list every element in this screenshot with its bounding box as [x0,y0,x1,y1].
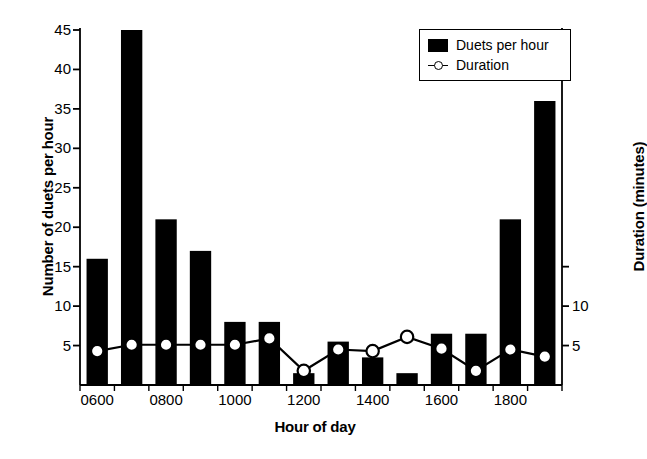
legend-label-duets: Duets per hour [456,38,549,52]
duration-marker-1100 [263,332,275,344]
duration-marker-1500 [401,331,413,343]
legend-item-duets: Duets per hour [428,35,563,55]
y-axis-right-tick-label-10: 10 [572,298,612,313]
x-axis-tick-labels: 0600080010001200140016001800 [0,392,644,414]
bar-0800 [155,219,176,385]
y-axis-left-tick-labels: 51015202530354045 [27,0,71,459]
duration-marker-1400 [366,345,378,357]
x-axis-tick-label-1400: 1400 [343,392,403,407]
duration-marker-1700 [470,365,482,377]
y-axis-right-tick-label-5: 5 [572,338,612,353]
duration-marker-1900 [539,350,551,362]
x-axis-tick-label-0600: 0600 [67,392,127,407]
duration-marker-0900 [194,339,206,351]
legend-item-duration: Duration [428,55,563,75]
duration-marker-0600 [91,345,103,357]
legend: Duets per hour Duration [419,29,571,81]
y-axis-left-tick-label-20: 20 [31,219,71,234]
y-axis-left-tick-label-40: 40 [31,61,71,76]
y-axis-left-tick-label-10: 10 [31,298,71,313]
x-axis-tick-label-1200: 1200 [274,392,334,407]
y-axis-left-tick-label-25: 25 [31,180,71,195]
y-axis-right-tick-labels: 510 [572,0,616,459]
duration-marker-1800 [504,343,516,355]
duration-marker-0700 [125,339,137,351]
y-axis-right-title: Duration (minutes) [630,47,647,367]
y-axis-left-tick-label-35: 35 [31,101,71,116]
x-axis-tick-label-1800: 1800 [480,392,540,407]
bar-series-duets-per-hour [87,30,556,385]
y-axis-left-tick-label-15: 15 [31,259,71,274]
y-axis-left-tick-label-30: 30 [31,140,71,155]
bar-0900 [190,251,211,385]
bar-1500 [396,373,417,385]
bar-1800 [500,219,521,385]
x-axis-tick-label-0800: 0800 [136,392,196,407]
duration-marker-1200 [298,365,310,377]
duration-marker-1000 [229,339,241,351]
bar-1400 [362,357,383,385]
x-axis-tick-label-1600: 1600 [412,392,472,407]
legend-bar-swatch-icon [428,39,448,52]
x-axis-title: Hour of day [80,418,550,435]
y-axis-left-tick-label-5: 5 [31,338,71,353]
duration-marker-1300 [332,343,344,355]
x-axis-tick-label-1000: 1000 [205,392,265,407]
bar-1900 [534,101,555,385]
y-axis-left-tick-label-45: 45 [31,22,71,37]
bar-0600 [87,259,108,385]
duration-marker-1600 [435,343,447,355]
legend-label-duration: Duration [456,58,509,72]
duration-marker-0800 [160,339,172,351]
legend-line-circle-icon [428,59,448,72]
bar-1000 [224,322,245,385]
bar-0700 [121,30,142,385]
